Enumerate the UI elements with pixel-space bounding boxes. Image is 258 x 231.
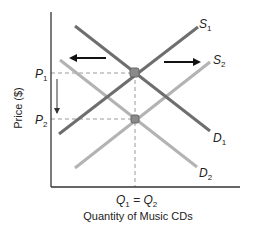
equilibrium-point-1 [130,68,139,77]
p2-label: P2 [35,113,48,129]
q-tick-label: Q1 = Q2 [116,193,158,209]
p1-label: P1 [35,67,48,83]
y-axis-label: Price ($) [12,87,24,129]
equilibrium-point-2 [131,115,139,123]
axes [51,12,240,187]
d2-label: D2 [199,166,213,182]
d2-curve [60,60,197,167]
s1-curve [59,27,198,134]
supply-demand-chart: Price ($) P1 P2 S1 S2 D1 D2 Q1 = Q2 Quan… [0,0,258,231]
d1-label: D1 [213,131,227,147]
s1-label: S1 [199,17,212,33]
s2-label: S2 [213,53,226,69]
x-axis-label: Quantity of Music CDs [83,210,193,222]
